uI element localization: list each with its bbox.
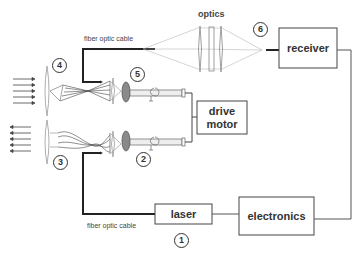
small-lens-bottom [110, 131, 121, 157]
incoming-light-arrows [13, 78, 35, 105]
shaft-bottom [130, 137, 185, 150]
fiber-cable-bottom-label: fiber optic cable [87, 222, 136, 229]
front-lens-top [45, 66, 49, 116]
bottom-fiber-bundle [50, 132, 110, 154]
diagram-canvas [0, 0, 363, 262]
motor-linkage [185, 93, 197, 142]
marker-5: 5 [130, 67, 145, 82]
marker-2: 2 [136, 152, 151, 167]
top-fiber-bundle [50, 81, 110, 101]
optics-rays [143, 28, 262, 69]
front-lens-bottom [45, 120, 49, 164]
optics-label: optics [198, 9, 225, 19]
fiber-cable-top-label: fiber optic cable [84, 35, 133, 42]
electronics-label: electronics [239, 210, 314, 222]
small-lens-top [110, 78, 121, 104]
marker-1: 1 [174, 233, 189, 248]
marker-3: 3 [53, 155, 68, 170]
receiver-label: receiver [279, 42, 337, 54]
marker-4: 4 [52, 58, 67, 73]
motor-label: motor [197, 118, 247, 130]
wedge-disc-top [122, 82, 130, 102]
wedge-disc-bottom [122, 131, 130, 151]
shaft-top [130, 88, 185, 101]
outgoing-light-arrows [10, 126, 31, 153]
marker-6: 6 [253, 22, 268, 37]
laser-label: laser [155, 208, 212, 220]
drive-label: drive [197, 105, 247, 117]
